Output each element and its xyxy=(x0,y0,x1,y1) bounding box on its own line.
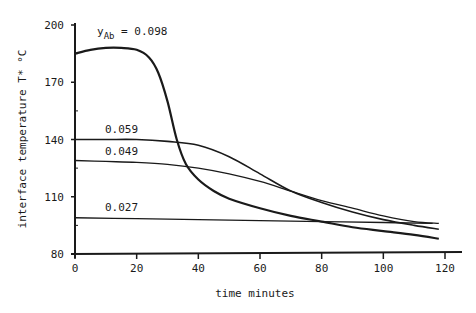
x-tick-label: 0 xyxy=(72,262,79,275)
y-tick-label: 80 xyxy=(51,248,64,261)
x-tick-label: 40 xyxy=(192,262,205,275)
y-tick-label: 110 xyxy=(44,191,64,204)
x-axis-label: time minutes xyxy=(215,287,294,300)
series-label-0.059: 0.059 xyxy=(105,123,138,136)
x-tick-label: 100 xyxy=(373,262,393,275)
x-axis xyxy=(71,252,462,254)
chart: 02040608010012080110140170200time minute… xyxy=(0,0,476,313)
series-label-0.027: 0.027 xyxy=(105,201,138,214)
x-tick-label: 60 xyxy=(253,262,266,275)
x-tick-label: 120 xyxy=(435,262,455,275)
x-tick-label: 20 xyxy=(130,262,143,275)
y-tick-label: 140 xyxy=(44,134,64,147)
y-tick-label: 200 xyxy=(44,19,64,32)
y-axis-label: interface temperature T* °C xyxy=(16,50,29,229)
series-label-0.098: yAb = 0.098 xyxy=(97,25,167,41)
x-tick-label: 80 xyxy=(315,262,328,275)
series-label-0.049: 0.049 xyxy=(105,145,138,158)
series-line-0.049 xyxy=(75,160,439,223)
y-tick-label: 170 xyxy=(44,76,64,89)
